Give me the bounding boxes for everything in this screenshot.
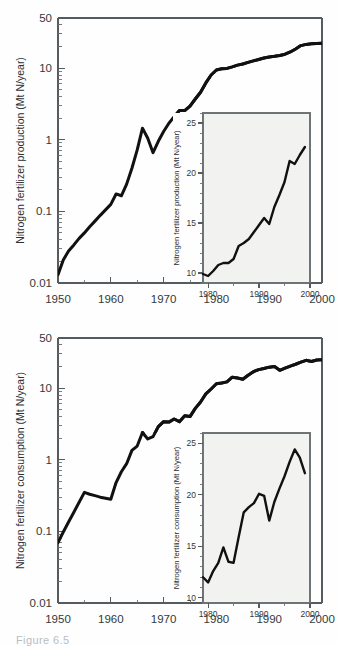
- inset-y-tick-label: 25: [187, 438, 197, 448]
- y-tick-label: 50: [39, 12, 52, 24]
- inset-y-tick-label: 20: [187, 168, 197, 178]
- inset-frame: [203, 433, 310, 603]
- y-axis-title: Nitrogen fertilizer production (Mt N/yea…: [14, 57, 26, 244]
- y-tick-label: 50: [39, 332, 52, 344]
- inset-frame: [203, 113, 310, 283]
- inset-y-tick-label: 20: [187, 490, 197, 500]
- plot-group: 0.010.111050195019601970198019902000Nitr…: [14, 12, 335, 305]
- inset-y-tick-label: 10: [187, 268, 197, 278]
- y-tick-label: 0.01: [30, 597, 52, 609]
- figure-caption: Figure 6.5: [16, 634, 70, 646]
- inset-x-tick-label: 1980: [199, 289, 218, 299]
- chart-panel-consumption: 0.010.111050195019601970198019902000Nitr…: [0, 320, 338, 644]
- y-tick-label: 10: [39, 382, 52, 394]
- x-tick-label: 1960: [98, 293, 124, 305]
- y-tick-label: 0.1: [36, 525, 52, 537]
- plot-group: 0.010.111050195019601970198019902000Nitr…: [14, 332, 335, 625]
- y-tick-label: 0.01: [30, 277, 52, 289]
- inset-x-tick-label: 1990: [250, 289, 269, 299]
- inset-y-tick-label: 15: [187, 218, 197, 228]
- inset-x-tick-label: 1980: [199, 609, 218, 619]
- y-axis-title: Nitrogen fertilizer consumption (Mt N/ye…: [14, 372, 26, 569]
- inset-x-tick-label: 1990: [250, 609, 269, 619]
- inset-group: 10152025198019902000Nitrogen fertilizer …: [172, 433, 320, 619]
- inset-y-tick-label: 10: [187, 593, 197, 603]
- y-tick-label: 1: [46, 454, 52, 466]
- x-tick-label: 1970: [151, 293, 177, 305]
- x-tick-label: 1950: [45, 613, 71, 625]
- inset-y-tick-label: 25: [187, 118, 197, 128]
- y-tick-label: 10: [39, 62, 52, 74]
- inset-group: 10152025198019902000Nitrogen fertilizer …: [172, 113, 320, 299]
- chart-panel-production: 0.010.111050195019601970198019902000Nitr…: [0, 0, 338, 322]
- inset-x-tick-label: 2000: [301, 289, 320, 299]
- x-tick-label: 1950: [45, 293, 71, 305]
- y-tick-label: 0.1: [36, 205, 52, 217]
- inset-x-tick-label: 2000: [301, 609, 320, 619]
- inset-y-axis-title: Nitrogen fertilizer consumption (Mt N/ye…: [172, 446, 181, 589]
- inset-y-axis-title: Nitrogen fertilizer production (Mt N/yea…: [172, 130, 181, 266]
- production-chart-svg: 0.010.111050195019601970198019902000Nitr…: [0, 0, 338, 322]
- x-tick-label: 1960: [98, 613, 124, 625]
- consumption-chart-svg: 0.010.111050195019601970198019902000Nitr…: [0, 320, 338, 644]
- inset-y-tick-label: 15: [187, 541, 197, 551]
- x-tick-label: 1970: [151, 613, 177, 625]
- y-tick-label: 1: [46, 134, 52, 146]
